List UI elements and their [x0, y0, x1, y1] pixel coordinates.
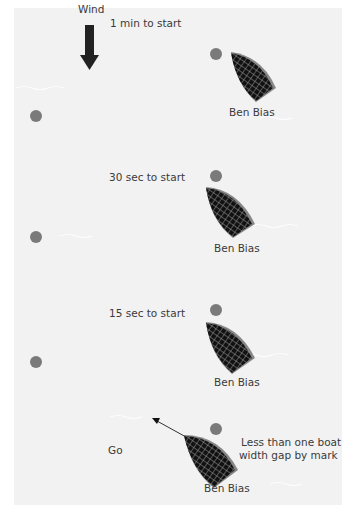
boat-end-mark-2: [210, 170, 222, 182]
stage-4-note-line1: Less than one boat: [241, 436, 341, 448]
stage-4-note-line2: width gap by mark: [239, 449, 338, 461]
stage-1-boat-label: Ben Bias: [229, 106, 275, 118]
pin-end-mark-3: [30, 356, 42, 368]
stage-4-boat-label: Ben Bias: [204, 482, 250, 494]
stage-2-time-label: 30 sec to start: [109, 171, 185, 183]
boat-icon-2: [206, 187, 255, 238]
stage-3-boat-label: Ben Bias: [214, 376, 260, 388]
stage-4-time-label: Go: [108, 444, 123, 456]
boat-end-mark-4: [210, 423, 222, 435]
boat-icon-3: [206, 322, 255, 374]
water-waves: [16, 87, 302, 486]
stage-2-boat-label: Ben Bias: [214, 242, 260, 254]
wind-arrow-icon: [80, 25, 99, 70]
boat-icon-4: [184, 435, 238, 488]
stage-3-time-label: 15 sec to start: [109, 307, 185, 319]
boat-icon-1: [231, 52, 276, 102]
boat-end-mark-1: [210, 48, 222, 60]
wind-label: Wind: [78, 3, 104, 15]
pin-end-mark-2: [30, 231, 42, 243]
boat-end-mark-3: [210, 304, 222, 316]
heading-arrow-icon: [152, 418, 186, 437]
pin-end-mark-1: [30, 110, 42, 122]
stage-1-time-label: 1 min to start: [110, 17, 182, 29]
